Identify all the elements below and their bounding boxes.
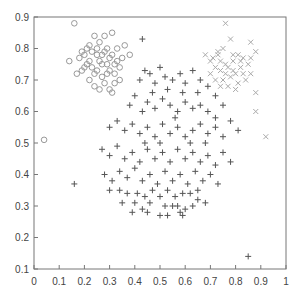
- plus-marker: [182, 134, 188, 140]
- plus-marker: [160, 121, 166, 127]
- circle-marker: [89, 49, 95, 55]
- plus-marker: [182, 156, 188, 162]
- plus-marker: [205, 83, 211, 89]
- plus-marker: [162, 74, 168, 80]
- plus-marker: [147, 200, 153, 206]
- plus-marker: [157, 212, 163, 218]
- x-tick-label: 0.3: [103, 276, 117, 287]
- plus-marker: [152, 105, 158, 111]
- y-tick-label: 0.4: [15, 169, 29, 180]
- x-marker: [213, 65, 218, 70]
- plus-marker: [182, 80, 188, 86]
- x-marker: [226, 65, 231, 70]
- plus-marker: [202, 140, 208, 146]
- x-marker: [223, 21, 228, 26]
- y-axis: 0.10.20.30.40.50.60.70.80.9: [15, 12, 38, 275]
- plus-marker: [147, 172, 153, 178]
- x-marker: [248, 55, 253, 60]
- plus-marker: [71, 181, 77, 187]
- plus-marker: [102, 172, 108, 178]
- x-marker: [248, 40, 253, 45]
- plus-marker: [172, 194, 178, 200]
- plus-marker: [167, 102, 173, 108]
- plus-marker: [205, 153, 211, 159]
- circle-marker: [102, 80, 108, 86]
- circle-marker: [117, 65, 123, 71]
- plus-marker: [175, 124, 181, 130]
- x-marker: [231, 52, 236, 57]
- plus-marker: [220, 134, 226, 140]
- circle-marker: [102, 33, 108, 39]
- plus-marker: [152, 80, 158, 86]
- plus-marker: [124, 190, 130, 196]
- plus-marker: [167, 159, 173, 165]
- plus-marker: [117, 187, 123, 193]
- plus-marker: [109, 178, 115, 184]
- plus-marker: [129, 121, 135, 127]
- plus-marker: [205, 109, 211, 115]
- circle-marker: [97, 87, 103, 93]
- plus-marker: [185, 181, 191, 187]
- x-marker: [221, 78, 226, 83]
- plus-marker: [157, 64, 163, 70]
- x-marker: [253, 90, 258, 95]
- x-axis: 00.10.20.30.40.50.60.70.80.91: [31, 265, 289, 287]
- x-tick-label: 0.1: [52, 276, 66, 287]
- y-tick-label: 0.5: [15, 138, 29, 149]
- x-tick-label: 0.5: [153, 276, 167, 287]
- plus-marker: [165, 187, 171, 193]
- plus-marker: [137, 131, 143, 137]
- x-tick-label: 0.4: [128, 276, 142, 287]
- plus-marker: [154, 181, 160, 187]
- x-marker: [248, 71, 253, 76]
- plus-marker: [152, 134, 158, 140]
- plus-marker: [195, 90, 201, 96]
- circle-marker: [127, 52, 133, 58]
- plus-marker: [190, 127, 196, 133]
- plus-marker: [162, 203, 168, 209]
- plus-marker: [228, 118, 234, 124]
- y-tick-label: 0.9: [15, 12, 29, 23]
- circle-marker: [87, 77, 93, 83]
- plus-marker: [137, 77, 143, 83]
- plus-marker: [215, 181, 221, 187]
- plus-marker: [149, 90, 155, 96]
- x-marker: [238, 59, 243, 64]
- x-marker: [243, 78, 248, 83]
- x-marker: [253, 49, 258, 54]
- y-tick-label: 0.7: [15, 75, 29, 86]
- plus-marker: [127, 102, 133, 108]
- plus-marker: [142, 68, 148, 74]
- plus-marker: [202, 200, 208, 206]
- scatter-chart: 00.10.20.30.40.50.60.70.80.91 0.10.20.30…: [0, 0, 301, 301]
- circle-marker: [122, 43, 128, 49]
- plus-marker: [117, 168, 123, 174]
- x-marker: [236, 81, 241, 86]
- plus-marker: [114, 143, 120, 149]
- x-marker: [218, 84, 223, 89]
- plus-marker: [132, 200, 138, 206]
- plus-marker: [180, 190, 186, 196]
- plus-marker: [212, 115, 218, 121]
- x-marker: [231, 68, 236, 73]
- plus-marker: [220, 102, 226, 108]
- plus-marker: [212, 162, 218, 168]
- circle-marker: [114, 46, 120, 52]
- plus-marker: [190, 149, 196, 155]
- circle-marker: [72, 21, 78, 27]
- circle-marker: [89, 65, 95, 71]
- x-marker: [263, 134, 268, 139]
- plus-marker: [180, 90, 186, 96]
- plot-points: [41, 21, 268, 260]
- circle-marker: [66, 58, 72, 64]
- circle-marker: [94, 46, 100, 52]
- x-marker: [226, 84, 231, 89]
- plus-marker: [160, 149, 166, 155]
- plus-marker: [114, 118, 120, 124]
- plus-marker: [167, 131, 173, 137]
- plus-marker: [147, 71, 153, 77]
- x-marker: [231, 59, 236, 64]
- plus-marker: [190, 203, 196, 209]
- plus-marker: [129, 149, 135, 155]
- plus-marker: [132, 93, 138, 99]
